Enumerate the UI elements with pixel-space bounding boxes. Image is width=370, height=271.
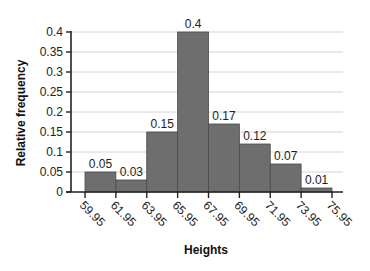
bar-value-label: 0.07 (274, 149, 298, 163)
x-axis-title: Heights (184, 243, 228, 257)
histogram-bar (239, 144, 270, 192)
y-axis-title: Relative frequency (14, 59, 28, 166)
x-tick-label: 75.95 (324, 198, 355, 229)
y-tick-label: 0.05 (40, 165, 64, 179)
histogram-bar (85, 172, 116, 192)
y-tick-label: 0.25 (40, 85, 64, 99)
y-tick-label: 0.1 (46, 145, 63, 159)
y-tick-label: 0.35 (40, 45, 64, 59)
histogram-bar (209, 124, 240, 192)
y-tick-label: 0.3 (46, 65, 63, 79)
bar-value-label: 0.17 (212, 109, 236, 123)
x-tick-label: 67.95 (200, 198, 231, 229)
x-tick-label: 69.95 (231, 198, 262, 229)
bar-value-label: 0.03 (120, 165, 144, 179)
histogram-chart: 00.050.10.150.20.250.30.350.4 59.9561.95… (0, 0, 370, 271)
bar-value-label: 0.05 (89, 157, 113, 171)
y-tick-label: 0 (56, 185, 63, 199)
histogram-bar (178, 32, 209, 192)
histogram-bar (270, 164, 301, 192)
y-tick-label: 0.2 (46, 105, 63, 119)
x-tick-label: 61.95 (108, 198, 139, 229)
x-tick-label: 65.95 (170, 198, 201, 229)
bar-value-label: 0.01 (305, 173, 329, 187)
y-axis-ticks: 00.050.10.150.20.250.30.350.4 (40, 25, 71, 199)
x-tick-label: 73.95 (293, 198, 324, 229)
histogram-bar (147, 132, 178, 192)
x-tick-label: 71.95 (262, 198, 293, 229)
x-axis-ticks: 59.9561.9563.9565.9567.9569.9571.9573.95… (77, 192, 355, 230)
bar-value-label: 0.15 (151, 117, 175, 131)
x-tick-label: 63.95 (139, 198, 170, 229)
bar-value-label: 0.4 (185, 17, 202, 31)
bar-value-label: 0.12 (243, 129, 267, 143)
x-tick-label: 59.95 (77, 198, 108, 229)
y-tick-label: 0.15 (40, 125, 64, 139)
y-tick-label: 0.4 (46, 25, 63, 39)
histogram-bar (116, 180, 147, 192)
